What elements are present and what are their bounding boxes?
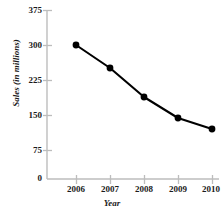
- data-point-2008: [141, 94, 148, 101]
- data-point-2007: [107, 65, 114, 72]
- data-point-2009: [175, 115, 182, 122]
- data-point-2010: [209, 126, 216, 133]
- data-line-sales: [76, 45, 212, 129]
- x-tick-label-2010: 2010: [191, 184, 224, 194]
- data-point-2006: [73, 42, 80, 49]
- line-chart: Sales (in millions) 375 300 225 150 75 0: [0, 0, 224, 215]
- axis-lines: [47, 10, 219, 179]
- plot-area: [0, 0, 224, 215]
- x-axis-title: Year: [0, 198, 224, 208]
